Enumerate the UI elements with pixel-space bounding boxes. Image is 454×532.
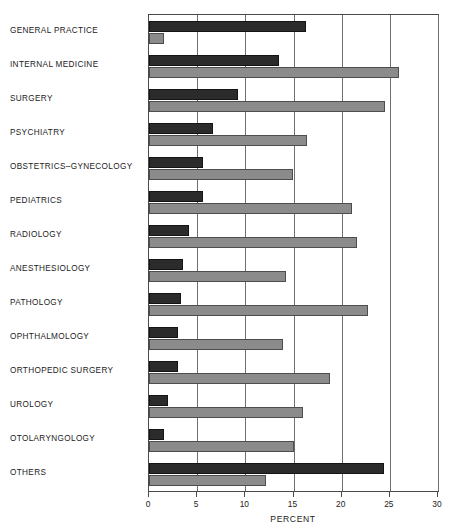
bar (149, 135, 307, 146)
tick-mark-0 (148, 491, 149, 497)
gridline-15 (294, 15, 295, 491)
gridline-25 (390, 15, 391, 491)
gridline-5 (197, 15, 198, 491)
category-label: GENERAL PRACTICE (10, 26, 146, 36)
tick-label-15: 15 (288, 499, 297, 509)
x-axis-tick-labels: 051015202530 (0, 499, 454, 511)
bar (149, 169, 293, 180)
bar (149, 123, 213, 134)
bar (149, 191, 203, 202)
tick-mark-10 (244, 491, 245, 497)
gridline-20 (342, 15, 343, 491)
bar (149, 89, 238, 100)
tick-label-0: 0 (146, 499, 151, 509)
category-label: OPHTHALMOLOGY (10, 332, 146, 342)
bar (149, 463, 384, 474)
bar (149, 339, 283, 350)
category-label: ORTHOPEDIC SURGERY (10, 366, 146, 376)
category-label: OBSTETRICS–GYNECOLOGY (10, 162, 146, 172)
bar-chart: GENERAL PRACTICEINTERNAL MEDICINESURGERY… (0, 0, 454, 532)
tick-mark-5 (196, 491, 197, 497)
bar (149, 361, 178, 372)
bar (149, 225, 189, 236)
bar (149, 157, 203, 168)
category-label: OTOLARYNGOLOGY (10, 434, 146, 444)
tick-mark-15 (293, 491, 294, 497)
bar (149, 67, 399, 78)
tick-mark-25 (389, 491, 390, 497)
bar (149, 475, 266, 486)
gridline-10 (245, 15, 246, 491)
tick-label-30: 30 (432, 499, 441, 509)
category-label: INTERNAL MEDICINE (10, 60, 146, 70)
bar (149, 237, 357, 248)
bar (149, 407, 303, 418)
category-label: RADIOLOGY (10, 230, 146, 240)
bar (149, 429, 164, 440)
category-label: PEDIATRICS (10, 196, 146, 206)
x-axis-title: PERCENT (148, 514, 438, 524)
tick-label-20: 20 (336, 499, 345, 509)
bar (149, 101, 385, 112)
bar (149, 271, 286, 282)
bar (149, 395, 168, 406)
tick-mark-30 (437, 491, 438, 497)
tick-label-10: 10 (240, 499, 249, 509)
category-label: SURGERY (10, 94, 146, 104)
bar (149, 259, 183, 270)
plot-area (148, 14, 439, 492)
category-label: ANESTHESIOLOGY (10, 264, 146, 274)
bar (149, 55, 279, 66)
tick-mark-20 (341, 491, 342, 497)
bar (149, 305, 368, 316)
x-axis-tick-marks (148, 491, 438, 498)
category-label: PATHOLOGY (10, 298, 146, 308)
category-label: OTHERS (10, 468, 146, 478)
bar (149, 21, 306, 32)
tick-label-25: 25 (384, 499, 393, 509)
bar (149, 33, 164, 44)
gridline-30 (438, 15, 439, 491)
bar (149, 441, 294, 452)
bar (149, 373, 330, 384)
bar (149, 293, 181, 304)
category-label: PSYCHIATRY (10, 128, 146, 138)
tick-label-5: 5 (194, 499, 199, 509)
category-label: UROLOGY (10, 400, 146, 410)
bar (149, 203, 352, 214)
bar (149, 327, 178, 338)
category-label-list: GENERAL PRACTICEINTERNAL MEDICINESURGERY… (0, 14, 146, 490)
